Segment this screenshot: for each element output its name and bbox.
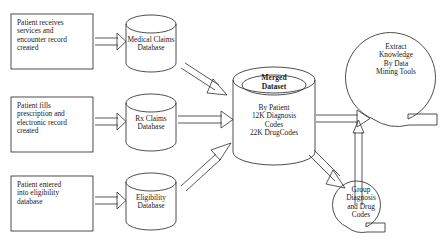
arrow-eligibility-to-merged [181, 143, 231, 191]
process-box-eligibility-label: Patient entered into eligibility databas… [17, 181, 91, 206]
cylinder-eligibility-label: Eligibility Database [111, 194, 191, 211]
arrow-medical-to-merged [181, 63, 227, 95]
merged-dataset-body: By Patient 12K Diagnosis Codes 22K DrugC… [232, 104, 316, 137]
arrow-merged-to-group [309, 150, 345, 188]
process-box-prescription-label: Patient fills prescription and electroni… [17, 102, 91, 135]
cylinder-rx-claims-label: Rx Claims Database [111, 115, 191, 132]
circle-group-codes-label: Group Diagnosis and Drug Codes [336, 186, 386, 219]
diagram-canvas: Patient receives services and encounter … [0, 0, 445, 247]
merged-dataset-title: Merged Dataset [234, 74, 314, 91]
circle-extract-knowledge-label: Extract Knowledge By Data Mining Tools [358, 43, 434, 76]
process-box-encounter-label: Patient receives services and encounter … [17, 19, 91, 52]
cylinder-medical-claims-label: Medical Claims Database [111, 36, 191, 53]
